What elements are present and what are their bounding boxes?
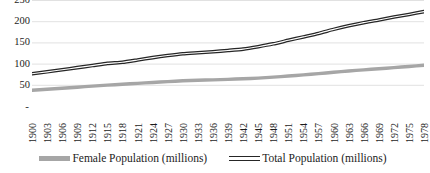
plot-svg <box>32 0 424 106</box>
x-axis-tick: 1927 <box>162 106 174 144</box>
legend-swatch-icon <box>229 156 260 161</box>
legend-item[interactable]: Total Population (millions) <box>229 152 386 165</box>
x-axis-tick-label: 1924 <box>147 123 158 143</box>
x-axis-tick-label: 1903 <box>42 123 53 143</box>
y-axis-tick-label: 200 <box>0 16 30 26</box>
legend-item[interactable]: Female Population (millions) <box>39 152 207 165</box>
x-axis-tick: 1909 <box>71 106 83 144</box>
x-axis-tick-label: 1906 <box>57 123 68 143</box>
x-axis-tick-label: 1915 <box>102 123 113 143</box>
gridlines <box>32 1 424 107</box>
y-axis-tick-label: 250 <box>0 0 30 5</box>
x-axis-tick: 1966 <box>358 106 370 144</box>
y-axis-tick-label: 100 <box>0 59 30 69</box>
x-axis-tick: 1957 <box>312 106 324 144</box>
chart-legend: Female Population (millions)Total Popula… <box>0 146 426 170</box>
x-axis-tick-label: 1939 <box>223 123 234 143</box>
y-axis-tick-label: 50 <box>0 80 30 90</box>
x-axis-tick-label: 1972 <box>388 123 399 143</box>
x-axis-tick-label: 1936 <box>207 123 218 143</box>
plot-area <box>32 0 424 106</box>
y-axis-tick-label: 150 <box>0 37 30 47</box>
x-axis-tick: 1936 <box>207 106 219 144</box>
x-axis-tick: 1939 <box>222 106 234 144</box>
x-axis-tick: 1915 <box>101 106 113 144</box>
x-axis-tick: 1918 <box>116 106 128 144</box>
x-axis-tick-label: 1900 <box>27 123 38 143</box>
x-axis-tick: 1933 <box>192 106 204 144</box>
x-axis-tick: 1942 <box>237 106 249 144</box>
x-axis: 1900190319061909191219151918192119241927… <box>32 106 424 144</box>
x-axis-tick-label: 1963 <box>343 123 354 143</box>
x-axis-tick: 1972 <box>388 106 400 144</box>
x-axis-tick: 1969 <box>373 106 385 144</box>
x-axis-tick-label: 1951 <box>283 123 294 143</box>
x-axis-tick: 1900 <box>26 106 38 144</box>
x-axis-tick-label: 1921 <box>132 123 143 143</box>
x-axis-tick-label: 1909 <box>72 123 83 143</box>
x-axis-tick: 1948 <box>267 106 279 144</box>
legend-label: Total Population (millions) <box>262 152 386 165</box>
x-axis-tick: 1945 <box>252 106 264 144</box>
x-axis-tick-label: 1933 <box>192 123 203 143</box>
x-axis-tick: 1930 <box>177 106 189 144</box>
series-line-female <box>32 65 424 90</box>
x-axis-tick: 1951 <box>282 106 294 144</box>
x-axis-tick: 1912 <box>86 106 98 144</box>
x-axis-tick-label: 1945 <box>253 123 264 143</box>
x-axis-tick-label: 1975 <box>403 123 414 143</box>
x-axis-tick: 1954 <box>297 106 309 144</box>
x-axis-tick-label: 1948 <box>268 123 279 143</box>
legend-label: Female Population (millions) <box>72 152 207 165</box>
x-axis-tick-label: 1930 <box>177 123 188 143</box>
x-axis-tick: 1978 <box>418 106 430 144</box>
x-axis-tick: 1960 <box>328 106 340 144</box>
x-axis-tick-label: 1912 <box>87 123 98 143</box>
series-layer <box>32 12 424 91</box>
x-axis-tick: 1906 <box>56 106 68 144</box>
x-axis-tick-label: 1927 <box>162 123 173 143</box>
y-axis: -50100150200250 <box>0 0 30 106</box>
x-axis-tick: 1975 <box>403 106 415 144</box>
x-axis-tick: 1921 <box>132 106 144 144</box>
x-axis-tick-label: 1969 <box>373 123 384 143</box>
x-axis-tick-label: 1960 <box>328 123 339 143</box>
x-axis-tick-label: 1918 <box>117 123 128 143</box>
x-axis-tick: 1924 <box>147 106 159 144</box>
x-axis-tick-label: 1954 <box>298 123 309 143</box>
x-axis-tick-label: 1957 <box>313 123 324 143</box>
x-axis-tick-label: 1966 <box>358 123 369 143</box>
x-axis-tick: 1903 <box>41 106 53 144</box>
x-axis-tick-label: 1978 <box>419 123 430 143</box>
x-axis-tick: 1963 <box>343 106 355 144</box>
x-axis-tick-label: 1942 <box>238 123 249 143</box>
legend-swatch-icon <box>39 156 70 161</box>
